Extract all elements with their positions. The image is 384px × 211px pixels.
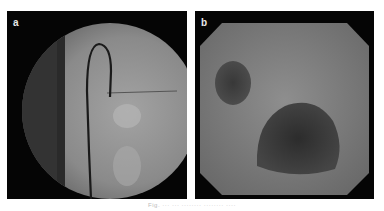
panel-label-a: a — [13, 17, 19, 28]
fluoroscopy-image — [7, 11, 187, 199]
figure-panel-b: b — [195, 11, 374, 199]
figure-panel-a: a — [7, 11, 187, 199]
endoscopy-image — [195, 11, 374, 199]
figure-caption: Fig. ··· ··· ········ ········ ···· — [0, 202, 384, 208]
panel-label-b: b — [201, 17, 207, 28]
